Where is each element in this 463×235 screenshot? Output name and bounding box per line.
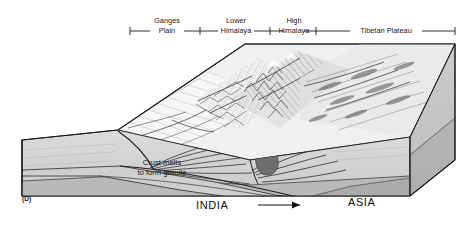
- granite-annotation: Crust melts to form granite: [138, 158, 187, 177]
- scale-label-lower-himalaya-line2: Himalaya: [221, 26, 253, 35]
- scale-bar: Ganges Plain Lower Himalaya High Himalay…: [130, 16, 455, 37]
- granite-annotation-line2: to form granite: [138, 168, 187, 177]
- india-convergence-arrow: [258, 202, 300, 209]
- scale-label-high-himalaya-line1: High: [286, 16, 301, 25]
- scale-label-ganges-plain-line1: Ganges: [154, 16, 180, 25]
- granite-annotation-line1: Crust melts: [143, 158, 182, 167]
- panel-tag: (D): [22, 195, 31, 203]
- figure-root: Ganges Plain Lower Himalaya High Himalay…: [0, 0, 463, 235]
- scale-label-tibetan-plateau: Tibetan Plateau: [360, 26, 412, 35]
- label-asia: ASIA: [348, 196, 376, 208]
- scale-label-lower-himalaya-line1: Lower: [226, 16, 247, 25]
- scale-label-high-himalaya-line2: Himalaya: [279, 26, 311, 35]
- label-india: INDIA: [196, 199, 228, 211]
- block-diagram-svg: Ganges Plain Lower Himalaya High Himalay…: [0, 0, 463, 235]
- scale-label-ganges-plain-line2: Plain: [159, 26, 175, 35]
